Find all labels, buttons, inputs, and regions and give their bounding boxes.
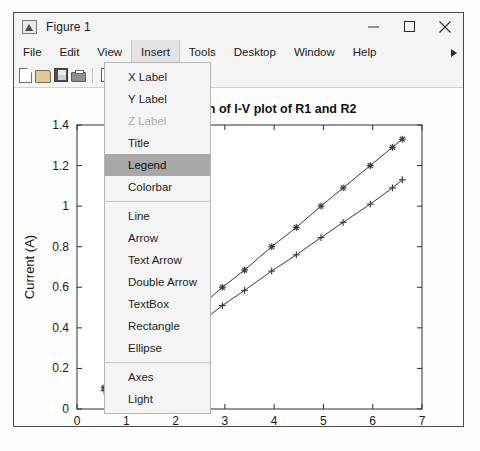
menu-desktop[interactable]: Desktop <box>225 40 285 63</box>
menu-separator <box>105 201 210 202</box>
new-figure-icon[interactable] <box>19 68 32 83</box>
x-tick-label: 0 <box>74 414 81 426</box>
data-point-marker <box>268 243 275 250</box>
window-title: Figure 1 <box>46 20 91 34</box>
x-tick-label: 7 <box>419 414 426 426</box>
menu-bar: File Edit View Insert Tools Desktop Wind… <box>14 40 463 63</box>
data-point-marker <box>241 267 248 274</box>
x-tick-label: 5 <box>320 414 327 426</box>
menu-view[interactable]: View <box>88 40 131 63</box>
menu-option-legend[interactable]: Legend <box>105 154 210 176</box>
menu-edit[interactable]: Edit <box>51 40 89 63</box>
save-figure-icon[interactable] <box>54 68 68 82</box>
data-point-marker <box>219 284 226 291</box>
menu-separator <box>105 362 210 363</box>
window-controls <box>355 13 463 40</box>
x-tick-label: 4 <box>271 414 278 426</box>
y-tick-label: 1 <box>62 199 69 213</box>
screenshot-root: Figure 1 File Edit View Insert Tools Des… <box>0 0 480 451</box>
y-tick-label: 1.2 <box>52 159 69 173</box>
menu-option-text-arrow[interactable]: Text Arrow <box>105 249 210 271</box>
maximize-icon[interactable] <box>391 13 427 40</box>
toolbar-separator <box>92 68 93 83</box>
menu-option-z-label: Z Label <box>105 110 210 132</box>
overflow-arrow-icon[interactable] <box>451 49 457 57</box>
y-tick-label: 0.8 <box>52 240 69 254</box>
y-axis-label: Current (A) <box>22 235 37 299</box>
close-icon[interactable] <box>427 13 463 40</box>
x-tick-label: 3 <box>222 414 229 426</box>
menu-option-line[interactable]: Line <box>105 205 210 227</box>
data-point-marker <box>367 162 374 169</box>
toolbar <box>14 63 463 88</box>
menu-option-arrow[interactable]: Arrow <box>105 227 210 249</box>
matlab-figure-icon <box>22 20 37 34</box>
menu-help[interactable]: Help <box>344 40 386 63</box>
data-point-marker <box>399 136 406 143</box>
menu-insert[interactable]: Insert <box>131 40 180 63</box>
menu-option-x-label[interactable]: X Label <box>105 66 210 88</box>
menu-window[interactable]: Window <box>285 40 344 63</box>
title-bar: Figure 1 <box>14 13 463 40</box>
data-point-marker <box>318 203 325 210</box>
menu-option-colorbar[interactable]: Colorbar <box>105 176 210 198</box>
menu-option-rectangle[interactable]: Rectangle <box>105 315 210 337</box>
data-point-marker <box>293 224 300 231</box>
menu-option-light[interactable]: Light <box>105 388 210 410</box>
figure-window: Figure 1 File Edit View Insert Tools Des… <box>13 12 464 427</box>
open-file-icon[interactable] <box>35 70 51 83</box>
x-tick-label: 1 <box>123 414 130 426</box>
y-tick-label: 1.4 <box>52 118 69 132</box>
figure-canvas[interactable]: Comparison of I-V plot of R1 and R201234… <box>14 88 463 426</box>
x-tick-label: 6 <box>369 414 376 426</box>
insert-dropdown-menu[interactable]: X Label Y Label Z Label Title Legend Col… <box>104 62 211 414</box>
iv-plot: Comparison of I-V plot of R1 and R201234… <box>14 88 463 426</box>
minimize-icon[interactable] <box>355 13 391 40</box>
menu-option-ellipse[interactable]: Ellipse <box>105 337 210 359</box>
menu-option-axes[interactable]: Axes <box>105 366 210 388</box>
menu-file[interactable]: File <box>14 40 51 63</box>
y-tick-label: 0 <box>62 402 69 416</box>
menu-tools[interactable]: Tools <box>180 40 225 63</box>
menu-option-y-label[interactable]: Y Label <box>105 88 210 110</box>
y-tick-label: 0.4 <box>52 321 69 335</box>
menu-option-textbox[interactable]: TextBox <box>105 293 210 315</box>
y-tick-label: 0.2 <box>52 361 69 375</box>
print-figure-icon[interactable] <box>71 72 86 82</box>
data-point-marker <box>389 144 396 151</box>
menu-option-double-arrow[interactable]: Double Arrow <box>105 271 210 293</box>
y-tick-label: 0.6 <box>52 280 69 294</box>
menu-option-title[interactable]: Title <box>105 132 210 154</box>
data-point-marker <box>340 184 347 191</box>
x-tick-label: 2 <box>172 414 179 426</box>
